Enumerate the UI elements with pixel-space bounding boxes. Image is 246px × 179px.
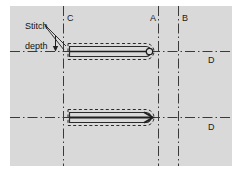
dimension-arrowhead-icon bbox=[53, 46, 58, 52]
stitch-depth-dimension bbox=[53, 36, 58, 52]
label-d-lower: D bbox=[208, 122, 215, 132]
figure-canvas: Stitch depth C A B D D bbox=[0, 0, 246, 179]
label-b: B bbox=[182, 13, 188, 23]
stitch-upper-loop-icon bbox=[146, 48, 152, 54]
stitch-depth-line2: depth bbox=[25, 41, 48, 51]
label-a: A bbox=[150, 13, 156, 23]
stitch-depth-annotation: Stitch depth bbox=[15, 11, 48, 61]
stitch-depth-line1: Stitch bbox=[25, 21, 48, 31]
label-c: C bbox=[67, 13, 74, 23]
label-d-upper: D bbox=[208, 55, 215, 65]
